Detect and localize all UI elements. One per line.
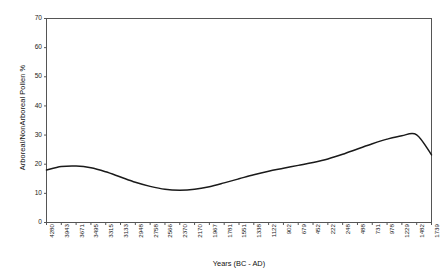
x-tick-label: 1781 xyxy=(227,224,233,264)
x-tick-label: 1482 xyxy=(419,224,425,264)
x-tick-label: 978 xyxy=(389,224,395,264)
pollen-line-chart: Arboreal/NonArboreal Pollen % 0102030405… xyxy=(0,0,442,278)
x-tick-label: 2170 xyxy=(197,224,203,264)
x-tick-label: 222 xyxy=(330,224,336,264)
x-tick-label: 731 xyxy=(375,224,381,264)
x-tick-label: 2758 xyxy=(153,224,159,264)
x-axis-tick-labels: 4280394336713495331531332948275825662370… xyxy=(0,0,442,278)
x-tick-label: 3315 xyxy=(108,224,114,264)
x-tick-label: 3495 xyxy=(93,224,99,264)
x-tick-label: 1551 xyxy=(241,224,247,264)
x-tick-label: 248 xyxy=(345,224,351,264)
x-tick-label: 3943 xyxy=(64,224,70,264)
x-tick-label: 2370 xyxy=(182,224,188,264)
x-tick-label: 2566 xyxy=(167,224,173,264)
x-axis-title: Years (BC - AD) xyxy=(46,259,432,268)
x-tick-label: 4280 xyxy=(49,224,55,264)
x-tick-label: 1122 xyxy=(271,224,277,264)
x-tick-label: 902 xyxy=(286,224,292,264)
x-tick-label: 1338 xyxy=(256,224,262,264)
x-tick-label: 679 xyxy=(301,224,307,264)
x-tick-label: 3671 xyxy=(79,224,85,264)
x-tick-label: 1967 xyxy=(212,224,218,264)
x-tick-label: 488 xyxy=(360,224,366,264)
x-tick-label: 3133 xyxy=(123,224,129,264)
x-tick-label: 452 xyxy=(315,224,321,264)
x-tick-label: 1739 xyxy=(434,224,440,264)
x-tick-label: 2948 xyxy=(138,224,144,264)
x-tick-label: 1229 xyxy=(404,224,410,264)
